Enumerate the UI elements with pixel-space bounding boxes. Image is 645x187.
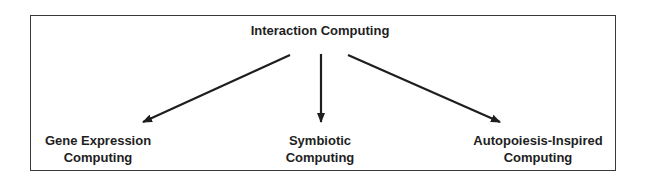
diagram-canvas: Interaction Computing Gene Expression Co… (0, 0, 645, 187)
child-node-symbiotic: Symbiotic Computing (286, 132, 355, 166)
child-node-gene-expression: Gene Expression Computing (45, 132, 151, 166)
child-label-line2: Computing (286, 149, 355, 166)
child-label-line2: Computing (45, 149, 151, 166)
child-node-autopoiesis-inspired: Autopoiesis-Inspired Computing (473, 132, 602, 166)
child-label-line1: Gene Expression (45, 132, 151, 149)
child-label-line1: Symbiotic (286, 132, 355, 149)
root-node-label: Interaction Computing (251, 22, 390, 39)
child-label-line2: Computing (473, 149, 602, 166)
arrow-to-autopoiesis (348, 55, 500, 122)
arrow-to-gene-expression (143, 55, 290, 122)
child-label-line1: Autopoiesis-Inspired (473, 132, 602, 149)
